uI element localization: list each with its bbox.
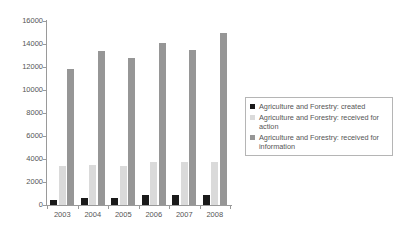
bar — [59, 166, 66, 205]
x-axis-tick-mark — [230, 205, 231, 209]
legend-label-created: Agriculture and Forestry: created — [259, 102, 365, 111]
legend-swatch-icon-received-for-information — [250, 135, 255, 140]
bar-group — [47, 21, 78, 205]
y-axis-tick-label: 2000 — [26, 178, 43, 186]
y-axis-tick-label: 4000 — [26, 155, 43, 163]
x-axis-tick-mark — [200, 205, 201, 209]
x-axis-tick-label: 2006 — [145, 211, 162, 219]
x-axis-tick-label: 2004 — [84, 211, 101, 219]
bar-chart: 0200040006000800010000120001400016000200… — [0, 0, 400, 237]
y-axis-tick-label: 12000 — [22, 63, 43, 71]
legend-item-received-for-action: Agriculture and Forestry: received for a… — [250, 113, 387, 131]
x-axis-tick-label: 2005 — [115, 211, 132, 219]
x-axis-tick-label: 2003 — [54, 211, 71, 219]
x-axis-tick-mark — [78, 205, 79, 209]
bar — [98, 51, 105, 205]
bar-group — [200, 21, 231, 205]
bar — [211, 162, 218, 205]
legend-label-received-for-action: Agriculture and Forestry: received for a… — [259, 113, 387, 131]
x-axis-tick-label: 2007 — [176, 211, 193, 219]
y-axis-tick-label: 14000 — [22, 40, 43, 48]
bar — [128, 58, 135, 205]
x-axis-tick-label: 2008 — [206, 211, 223, 219]
bar — [142, 195, 149, 205]
y-axis-tick-label: 6000 — [26, 132, 43, 140]
legend-item-received-for-information: Agriculture and Forestry: received for i… — [250, 133, 387, 151]
y-axis-tick-label: 0 — [39, 201, 43, 209]
bar — [159, 43, 166, 205]
legend-swatch-icon-received-for-action — [250, 115, 255, 120]
bar — [111, 198, 118, 205]
plot-area: 0200040006000800010000120001400016000200… — [47, 21, 230, 205]
bar-group — [78, 21, 109, 205]
y-axis-tick-label: 16000 — [22, 17, 43, 25]
bar — [181, 162, 188, 205]
legend-label-received-for-information: Agriculture and Forestry: received for i… — [259, 133, 387, 151]
bar — [50, 200, 57, 205]
bar — [67, 69, 74, 205]
bar — [150, 162, 157, 205]
bar-group — [108, 21, 139, 205]
bar — [172, 195, 179, 205]
y-axis-tick-label: 8000 — [26, 109, 43, 117]
bar — [120, 166, 127, 205]
bar — [203, 195, 210, 205]
x-axis-tick-mark — [108, 205, 109, 209]
y-axis-tick-label: 10000 — [22, 86, 43, 94]
bar — [189, 50, 196, 205]
bar — [81, 198, 88, 205]
bar — [89, 165, 96, 205]
x-axis-tick-mark — [47, 205, 48, 209]
legend-item-created: Agriculture and Forestry: created — [250, 102, 387, 111]
x-axis-tick-mark — [139, 205, 140, 209]
bar-group — [139, 21, 170, 205]
legend-swatch-icon-created — [250, 104, 255, 109]
chart-legend: Agriculture and Forestry: created Agricu… — [245, 97, 393, 156]
x-axis-tick-mark — [169, 205, 170, 209]
bar-group — [169, 21, 200, 205]
bar — [220, 33, 227, 206]
